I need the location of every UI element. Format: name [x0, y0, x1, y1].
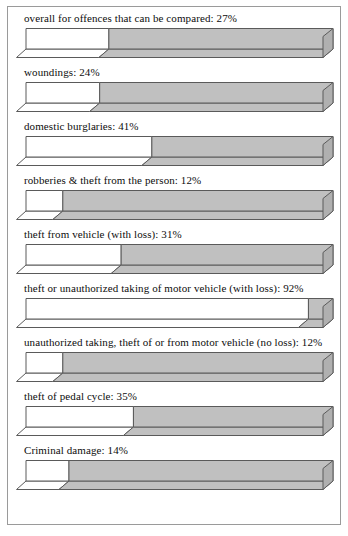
bar-front-face-value [26, 83, 100, 104]
bar-front-face-value [26, 299, 308, 320]
bar-bottom-face-remainder [123, 427, 333, 436]
bar-graphic [16, 406, 334, 436]
bar-row-label: unauthorized taking, theft of or from mo… [24, 336, 322, 349]
bar-graphic [16, 82, 334, 112]
bar-graphic [16, 244, 334, 274]
bar-bottom-face-value [17, 49, 109, 58]
bar-bottom-face-remainder [90, 103, 333, 112]
bar-row: domestic burglaries: 41% [8, 115, 340, 169]
bar-front-face-remainder [121, 245, 333, 266]
bar-bottom-face-remainder [99, 49, 333, 58]
bar-row: robberies & theft from the person: 12% [8, 169, 340, 223]
bar-chart: overall for offences that can be compare… [8, 7, 340, 524]
bar-row: woundings: 24% [8, 61, 340, 115]
bar-row-label: theft from vehicle (with loss): 31% [24, 228, 182, 241]
bar-bottom-face-value [17, 103, 100, 112]
bar-bottom-face-remainder [59, 481, 333, 490]
bar-graphic [16, 28, 334, 58]
bar-bottom-face-remainder [142, 157, 333, 166]
bar-front-face-remainder [63, 191, 333, 212]
bar-front-face-remainder [152, 137, 333, 158]
bar-row: theft of pedal cycle: 35% [8, 385, 340, 439]
bar-front-face-remainder [100, 83, 333, 104]
bar-row: theft from vehicle (with loss): 31% [8, 223, 340, 277]
bar-graphic [16, 460, 334, 490]
chart-figure-frame: overall for offences that can be compare… [7, 6, 341, 525]
bar-bottom-face-value [17, 319, 309, 328]
bar-front-face-value [26, 137, 152, 158]
bar-row-label: overall for offences that can be compare… [24, 12, 237, 25]
bar-front-face-remainder [63, 353, 333, 374]
bar-front-face-value [26, 353, 63, 374]
bar-front-face-value [26, 245, 121, 266]
bar-row: theft or unauthorized taking of motor ve… [8, 277, 340, 331]
bar-bottom-face-remainder [111, 265, 333, 274]
bar-front-face-remainder [69, 461, 333, 482]
bar-graphic [16, 136, 334, 166]
bar-front-face-value [26, 29, 109, 50]
bar-row-label: robberies & theft from the person: 12% [24, 174, 201, 187]
bar-row-label: theft of pedal cycle: 35% [24, 390, 137, 403]
bar-graphic [16, 190, 334, 220]
bar-bottom-face-value [17, 427, 134, 436]
bar-bottom-face-remainder [53, 373, 333, 382]
bar-front-face-value [26, 407, 133, 428]
bar-row-label: theft or unauthorized taking of motor ve… [24, 282, 304, 295]
bar-row-label: domestic burglaries: 41% [24, 120, 139, 133]
bar-graphic [16, 352, 334, 382]
bar-row-label: woundings: 24% [24, 66, 100, 79]
bar-row-label: Criminal damage: 14% [24, 444, 128, 457]
bar-graphic [16, 298, 334, 328]
bar-front-face-remainder [133, 407, 333, 428]
bar-bottom-face-value [17, 265, 122, 274]
bar-front-face-remainder [109, 29, 333, 50]
bar-front-face-value [26, 461, 69, 482]
bar-row: unauthorized taking, theft of or from mo… [8, 331, 340, 385]
bar-row: overall for offences that can be compare… [8, 7, 340, 61]
bar-front-face-value [26, 191, 63, 212]
bar-bottom-face-remainder [53, 211, 333, 220]
bar-row: Criminal damage: 14% [8, 439, 340, 495]
bar-bottom-face-value [17, 157, 152, 166]
